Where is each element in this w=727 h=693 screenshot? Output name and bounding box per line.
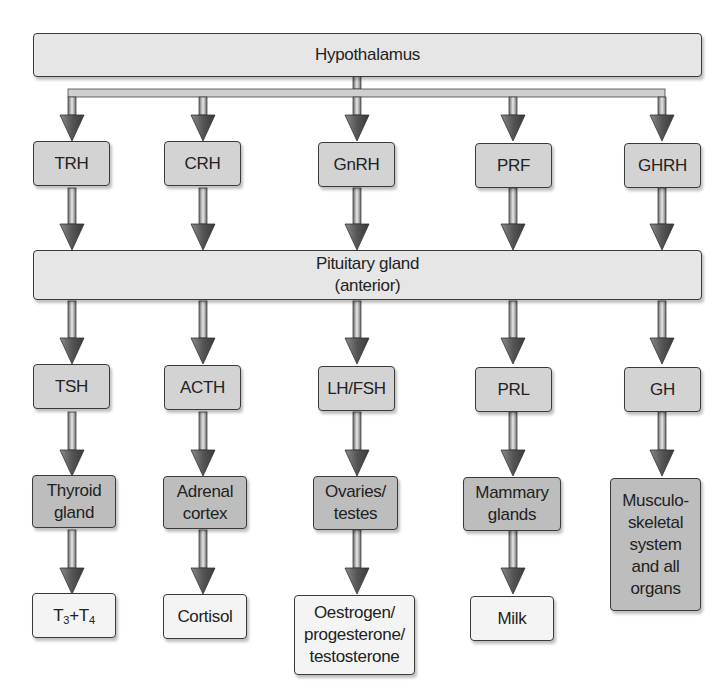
arrow-head-icon: [345, 224, 369, 250]
hypothalamus-box: Hypothalamus: [33, 33, 702, 77]
arrow-head-icon: [191, 115, 215, 141]
mammary-line1: Mammary: [475, 482, 548, 504]
arrow-head-icon: [60, 568, 84, 594]
sex-hormones-box: Oestrogen/progesterone/testosterone: [294, 595, 415, 675]
arrow-head-icon: [345, 115, 369, 141]
mammary-box: Mammaryglands: [463, 477, 561, 531]
tsh-box: TSH: [33, 364, 110, 409]
pituitary-label-line1: Pituitary gland: [316, 253, 419, 275]
sex-line2: progesterone/: [304, 624, 405, 646]
prl-label: PRL: [497, 379, 529, 401]
ovaries-line1: Ovaries/: [325, 481, 386, 503]
arrow-head-icon: [60, 224, 84, 250]
arrow-head-icon: [650, 115, 674, 141]
t3t4-label: T3+T4: [53, 605, 94, 627]
arrow-head-icon: [650, 450, 674, 476]
arrow-head-icon: [501, 338, 525, 364]
ghrh-label: GHRH: [638, 155, 687, 177]
arrow-head-icon: [60, 115, 84, 141]
sex-line1: Oestrogen/: [314, 602, 395, 624]
ghrh-box: GHRH: [624, 143, 701, 188]
musc-line5: organs: [630, 578, 680, 600]
gh-box: GH: [624, 367, 701, 412]
arrow-head-icon: [501, 450, 525, 476]
musc-line2: skeletal: [628, 512, 683, 534]
lhfsh-label: LH/FSH: [327, 378, 386, 400]
arrow-head-icon: [650, 338, 674, 364]
adrenal-line1: Adrenal: [177, 481, 234, 503]
ovaries-line2: testes: [334, 503, 378, 525]
arrow-head-icon: [501, 224, 525, 250]
sex-line3: testosterone: [310, 646, 400, 668]
arrow-head-icon: [191, 450, 215, 476]
cortisol-box: Cortisol: [163, 594, 247, 639]
gnrh-label: GnRH: [333, 154, 379, 176]
arrow-head-icon: [345, 450, 369, 476]
prl-box: PRL: [475, 367, 552, 412]
trh-box: TRH: [33, 141, 110, 186]
lhfsh-box: LH/FSH: [318, 366, 395, 411]
pituitary-label-line2: (anterior): [335, 275, 401, 297]
crh-label: CRH: [185, 153, 221, 175]
musculoskeletal-box: Musculo-skeletalsystemand allorgans: [610, 478, 701, 611]
adrenal-box: Adrenalcortex: [163, 476, 247, 529]
trh-label: TRH: [54, 153, 88, 175]
prf-label: PRF: [497, 155, 530, 177]
milk-box: Milk: [470, 596, 554, 641]
musc-line4: and all: [632, 556, 680, 578]
adrenal-line2: cortex: [183, 503, 228, 525]
gnrh-box: GnRH: [318, 142, 395, 187]
musc-line3: system: [629, 534, 681, 556]
thyroid-box: Thyroidgland: [32, 475, 116, 528]
arrow-head-icon: [191, 224, 215, 250]
arrow-head-icon: [501, 115, 525, 141]
arrow-head-icon: [191, 568, 215, 594]
gh-label: GH: [650, 379, 675, 401]
tsh-label: TSH: [55, 376, 88, 398]
t3t4-box: T3+T4: [32, 593, 116, 638]
arrow-head-icon: [60, 450, 84, 476]
milk-label: Milk: [497, 608, 526, 630]
thyroid-line1: Thyroid: [47, 480, 102, 502]
pituitary-box: Pituitary gland (anterior): [33, 250, 702, 300]
acth-box: ACTH: [164, 365, 241, 410]
arrow-head-icon: [501, 568, 525, 594]
musc-line1: Musculo-: [622, 490, 689, 512]
thyroid-line2: gland: [54, 502, 94, 524]
arrow-head-icon: [60, 338, 84, 364]
mammary-line2: glands: [488, 504, 536, 526]
prf-box: PRF: [475, 143, 552, 188]
acth-label: ACTH: [180, 377, 225, 399]
arrow-head-icon: [650, 224, 674, 250]
hypothalamus-label: Hypothalamus: [315, 44, 420, 66]
ovaries-box: Ovaries/testes: [313, 476, 398, 530]
cortisol-label: Cortisol: [177, 606, 232, 628]
crh-box: CRH: [164, 141, 241, 186]
arrow-head-icon: [345, 568, 369, 594]
arrow-head-icon: [191, 338, 215, 364]
arrow-head-icon: [345, 338, 369, 364]
